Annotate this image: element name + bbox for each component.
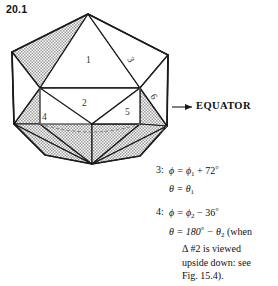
note-4-line-5: Fig. 15.4).	[182, 269, 278, 283]
note-4-key: 4:	[156, 205, 169, 224]
note-3-theta-sub: 1	[191, 188, 195, 196]
note-3-phi-degree: °	[215, 164, 219, 174]
note-3-key: 3:	[156, 163, 169, 182]
equator-label: EQUATOR	[196, 100, 251, 111]
note-4-line-3: Δ #2 is viewed	[182, 242, 278, 256]
note-3-line-2: θ = θ1	[169, 182, 278, 200]
face-label-5: 5	[125, 107, 130, 117]
note-3-phi-expr: ϕ = ϕ	[169, 165, 191, 176]
note-3-line-1: ϕ = ϕ1 + 72°	[169, 163, 278, 182]
note-4-phi-expr: ϕ = ϕ	[169, 207, 191, 218]
note-face-3: 3: ϕ = ϕ1 + 72° θ = θ1	[156, 163, 278, 199]
face-label-4: 4	[42, 112, 47, 122]
note-4-theta-mid: − θ	[204, 226, 221, 237]
note-4-theta-expr: θ = 180	[169, 226, 201, 237]
note-4-phi-post: − 36	[195, 207, 216, 218]
note-4-line-2: θ = 180° − θ2 (when	[169, 224, 278, 243]
note-4-theta-post: (when	[224, 226, 252, 237]
note-face-4: 4: ϕ = ϕ2 − 36° θ = 180° − θ2 (when Δ #2…	[156, 205, 278, 283]
figure-number: 20.1	[6, 3, 27, 15]
note-3-theta-expr: θ = θ	[169, 183, 191, 194]
face-label-2: 2	[82, 98, 87, 108]
figure-notes: 3: ϕ = ϕ1 + 72° θ = θ1 4: ϕ = ϕ2 − 36° θ…	[156, 163, 278, 286]
note-3-phi-post: + 72	[195, 165, 216, 176]
face-label-1: 1	[86, 55, 91, 65]
note-4-phi-degree: °	[215, 206, 219, 216]
note-4-line-1: ϕ = ϕ2 − 36°	[169, 205, 278, 224]
note-4-line-4: upside down: see	[182, 256, 278, 270]
equator-arrow	[172, 104, 192, 110]
